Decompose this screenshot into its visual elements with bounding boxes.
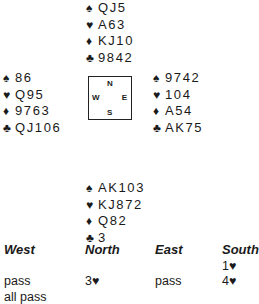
south-hand: ♠AK103 ♥KJ872 ♦Q82 ♣3 (86, 180, 145, 246)
diamond-icon: ♦ (3, 103, 15, 120)
east-clubs: ♣AK75 (153, 120, 203, 137)
north-clubs: ♣9842 (86, 50, 134, 67)
west-clubs-cards: QJ106 (15, 120, 61, 135)
east-clubs-cards: AK75 (165, 120, 203, 135)
club-icon: ♣ (153, 120, 165, 137)
spade-icon: ♠ (86, 180, 98, 197)
spade-icon: ♠ (153, 70, 165, 87)
heart-icon: ♥ (86, 197, 98, 214)
east-hearts-cards: 104 (165, 87, 192, 102)
auction-header-west: West (4, 242, 35, 257)
diamond-icon: ♦ (86, 33, 98, 50)
south-spades-cards: AK103 (98, 180, 145, 195)
diamond-icon: ♦ (153, 103, 165, 120)
compass-north: N (107, 79, 113, 88)
compass-east: E (122, 93, 127, 102)
west-diamonds: ♦9763 (3, 103, 61, 120)
auction-header-south: South (222, 242, 259, 257)
west-hand: ♠86 ♥Q95 ♦9763 ♣QJ106 (3, 70, 61, 136)
east-diamonds: ♦A54 (153, 103, 203, 120)
east-spades-cards: 9742 (165, 70, 200, 85)
auction-call: 3♥ (85, 274, 99, 288)
west-diamonds-cards: 9763 (15, 103, 50, 118)
auction-call: 4♥ (222, 274, 236, 288)
spade-icon: ♠ (86, 0, 98, 17)
south-diamonds-cards: Q82 (98, 213, 127, 228)
north-clubs-cards: 9842 (98, 50, 133, 65)
diamond-icon: ♦ (86, 213, 98, 230)
east-spades: ♠9742 (153, 70, 203, 87)
heart-icon: ♥ (153, 87, 165, 104)
west-clubs: ♣QJ106 (3, 120, 61, 137)
north-hand: ♠QJ5 ♥A63 ♦KJ10 ♣9842 (86, 0, 134, 66)
auction-header-east: East (155, 242, 182, 257)
east-hearts: ♥104 (153, 87, 203, 104)
club-icon: ♣ (3, 120, 15, 137)
north-hearts-cards: A63 (98, 17, 126, 32)
compass-box: N W E S (88, 76, 132, 120)
east-hand: ♠9742 ♥104 ♦A54 ♣AK75 (153, 70, 203, 136)
west-spades: ♠86 (3, 70, 61, 87)
south-spades: ♠AK103 (86, 180, 145, 197)
compass-west: W (92, 93, 100, 102)
west-hearts: ♥Q95 (3, 87, 61, 104)
north-diamonds: ♦KJ10 (86, 33, 134, 50)
compass-south: S (107, 108, 112, 117)
club-icon: ♣ (86, 50, 98, 67)
west-hearts-cards: Q95 (15, 87, 44, 102)
auction-call: 1♥ (222, 259, 236, 273)
spade-icon: ♠ (3, 70, 15, 87)
north-diamonds-cards: KJ10 (98, 33, 134, 48)
south-hearts-cards: KJ872 (98, 197, 143, 212)
west-spades-cards: 86 (15, 70, 33, 85)
auction-header-north: North (85, 242, 120, 257)
east-diamonds-cards: A54 (165, 103, 193, 118)
north-spades: ♠QJ5 (86, 0, 134, 17)
auction-call: pass (4, 274, 30, 288)
north-spades-cards: QJ5 (98, 0, 127, 15)
auction-call: pass (155, 274, 181, 288)
heart-icon: ♥ (3, 87, 15, 104)
south-hearts: ♥KJ872 (86, 197, 145, 214)
north-hearts: ♥A63 (86, 17, 134, 34)
auction-call: all pass (4, 290, 46, 304)
south-diamonds: ♦Q82 (86, 213, 145, 230)
heart-icon: ♥ (86, 17, 98, 34)
